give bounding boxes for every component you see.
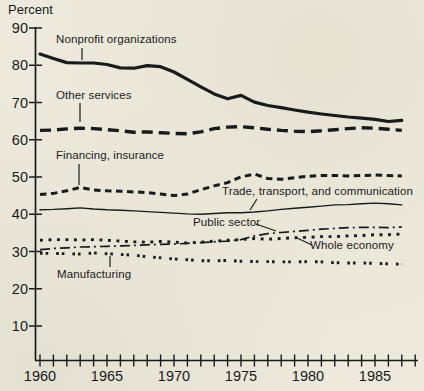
x-tick-label: 1970 [158, 368, 190, 384]
series-label-trade-transport-communication: Trade, transport, and communication [222, 185, 413, 197]
x-tick-labels: 196019651970197519801985 [24, 368, 391, 384]
y-tick-label: 60 [12, 132, 28, 148]
series-line-other-services [40, 127, 402, 134]
y-tick-label: 80 [12, 57, 28, 73]
y-tick-label: 40 [12, 206, 28, 222]
leader-line-trade-transport [250, 199, 257, 210]
series-line-nonprofit-organizations [40, 54, 402, 121]
series-label-nonprofit-organizations: Nonprofit organizations [56, 33, 177, 45]
y-tick-label: 30 [12, 244, 28, 260]
series-label-whole-economy: Whole economy [310, 239, 394, 251]
y-tick-label: 70 [12, 95, 28, 111]
y-tick-label: 50 [12, 169, 28, 185]
series-label-public-sector: Public sector [193, 216, 260, 228]
y-tick-label: 10 [12, 318, 28, 334]
series-label-financing-insurance: Financing, insurance [56, 149, 164, 161]
x-tick-label: 1985 [359, 368, 391, 384]
y-tick-label: 20 [12, 281, 28, 297]
x-tick-label: 1960 [24, 368, 56, 384]
scanned-line-chart-page: 9080706050403020101960196519701975198019… [0, 0, 424, 391]
x-tick-label: 1975 [225, 368, 257, 384]
x-tick-label: 1980 [292, 368, 324, 384]
series-label-manufacturing: Manufacturing [57, 268, 131, 280]
y-tick-labels: 908070605040302010 [12, 20, 28, 334]
x-tick-label: 1965 [91, 368, 123, 384]
series-line-manufacturing [40, 253, 402, 264]
y-axis-title: Percent [8, 2, 53, 17]
series-line-trade-transport-and-communication [40, 203, 402, 214]
y-tick-label: 90 [12, 20, 28, 36]
series-label-other-services: Other services [56, 89, 132, 101]
